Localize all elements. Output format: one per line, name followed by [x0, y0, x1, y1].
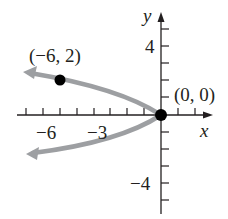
- y-axis-arrow-icon: [158, 12, 165, 22]
- y-tick-label-4: 4: [145, 36, 155, 57]
- lower-arrow-icon: [26, 147, 39, 160]
- x-tick-label-neg6: −6: [36, 122, 56, 143]
- x-axis-label: x: [199, 120, 209, 141]
- y-axis-label: y: [141, 5, 152, 26]
- x-tick-label-neg3: −3: [87, 122, 107, 143]
- vertex-label: (0, 0): [174, 84, 215, 106]
- point-neg6-2: [55, 75, 66, 86]
- vertex-point: [155, 109, 167, 121]
- y-tick-label-neg4: −4: [130, 173, 151, 194]
- x-axis-ticks: [26, 108, 195, 115]
- x-axis-arrow-icon: [203, 112, 213, 119]
- graph-canvas: y x −6 −3 4 −4 (−6, 2) (0, 0): [0, 0, 228, 219]
- point-label-neg6-2: (−6, 2): [29, 45, 81, 67]
- upper-arrow-icon: [23, 66, 37, 79]
- x-axis: [17, 108, 213, 119]
- parabola-curve: [23, 66, 161, 160]
